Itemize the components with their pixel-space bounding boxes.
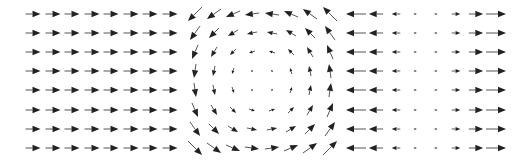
arrow xyxy=(212,85,216,95)
arrow xyxy=(211,47,217,57)
arrow xyxy=(104,87,119,93)
arrow xyxy=(46,11,61,17)
arrow xyxy=(486,30,506,36)
arrow xyxy=(392,88,401,92)
arrow xyxy=(369,107,383,113)
arrow xyxy=(46,145,61,151)
arrow xyxy=(85,68,100,74)
arrow xyxy=(163,68,178,74)
arrow xyxy=(267,127,277,131)
arrow xyxy=(26,87,41,93)
arrow xyxy=(307,105,313,115)
arrow xyxy=(124,68,139,74)
arrow xyxy=(26,126,41,132)
arrow xyxy=(435,109,438,111)
arrow xyxy=(207,9,221,19)
arrow xyxy=(369,49,383,55)
arrow xyxy=(190,26,200,40)
arrow xyxy=(124,87,139,93)
arrow xyxy=(284,11,298,17)
arrow xyxy=(452,127,461,131)
arrow xyxy=(486,87,506,93)
arrow xyxy=(307,47,313,57)
arrow xyxy=(346,107,366,113)
arrow xyxy=(192,83,198,97)
arrow xyxy=(190,122,200,136)
arrow xyxy=(245,145,259,151)
arrow xyxy=(392,69,401,73)
arrow xyxy=(26,107,41,113)
arrow xyxy=(269,109,275,112)
arrow xyxy=(469,126,483,132)
arrow xyxy=(267,31,277,35)
arrow xyxy=(26,68,41,74)
arrow xyxy=(26,11,41,17)
arrow xyxy=(65,107,80,113)
arrow xyxy=(288,107,294,113)
arrow xyxy=(124,49,139,55)
arrow xyxy=(230,49,236,55)
arrow xyxy=(469,49,483,55)
arrow xyxy=(65,30,80,36)
arrow xyxy=(163,145,178,151)
arrow xyxy=(435,128,438,130)
arrow xyxy=(143,87,158,93)
arrow xyxy=(392,146,401,150)
arrow xyxy=(271,89,273,91)
arrow xyxy=(65,87,80,93)
arrow xyxy=(435,89,438,91)
arrow xyxy=(163,49,178,55)
arrow xyxy=(124,30,139,36)
arrow xyxy=(414,128,417,130)
divergence-flow-panel xyxy=(346,11,506,151)
arrow xyxy=(271,70,273,72)
arrow xyxy=(26,30,41,36)
arrow xyxy=(323,141,337,155)
arrow xyxy=(226,145,240,151)
arrow xyxy=(452,50,461,54)
arrow xyxy=(163,107,178,113)
arrow xyxy=(207,143,221,153)
arrow xyxy=(327,64,333,78)
arrow xyxy=(232,87,235,93)
arrow xyxy=(228,126,238,132)
arrow xyxy=(104,68,119,74)
arrow xyxy=(469,30,483,36)
arrow xyxy=(346,30,366,36)
arrow xyxy=(143,30,158,36)
arrow xyxy=(452,31,461,35)
arrow xyxy=(414,70,417,72)
arrow xyxy=(143,49,158,55)
arrow xyxy=(85,145,100,151)
arrow xyxy=(26,49,41,55)
arrow xyxy=(486,107,506,113)
arrow xyxy=(124,126,139,132)
arrow xyxy=(327,103,333,117)
arrow xyxy=(435,147,438,149)
arrow xyxy=(143,107,158,113)
arrow xyxy=(392,12,401,16)
arrow xyxy=(286,30,296,36)
arrow xyxy=(369,126,383,132)
arrow xyxy=(188,141,202,155)
arrow xyxy=(65,126,80,132)
arrow xyxy=(346,126,366,132)
arrow xyxy=(325,122,335,136)
arrow xyxy=(85,126,100,132)
arrow xyxy=(369,68,383,74)
arrow xyxy=(469,145,483,151)
arrow xyxy=(265,11,279,17)
arrow xyxy=(85,49,100,55)
arrow xyxy=(486,68,506,74)
arrow xyxy=(143,145,158,151)
arrow xyxy=(325,26,335,40)
arrow xyxy=(26,145,41,151)
arrow xyxy=(435,51,438,53)
arrow xyxy=(392,50,401,54)
arrow xyxy=(209,28,219,38)
arrow xyxy=(269,51,275,54)
arrow xyxy=(163,126,178,132)
arrow xyxy=(163,11,178,17)
arrow xyxy=(346,68,366,74)
arrow xyxy=(452,69,461,73)
